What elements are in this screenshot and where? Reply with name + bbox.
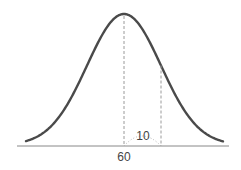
normal-curve-diagram: 10 60 — [0, 0, 241, 170]
std-dev-label: 10 — [136, 129, 150, 143]
mean-label: 60 — [117, 150, 131, 164]
